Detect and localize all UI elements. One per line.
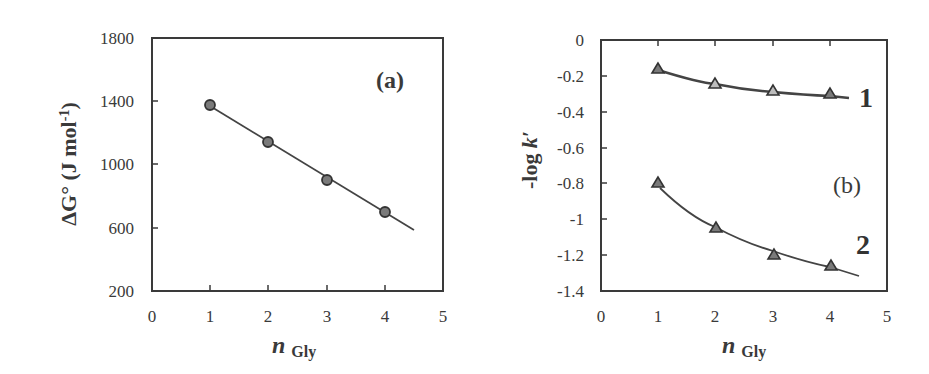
svg-text:4: 4	[826, 307, 835, 326]
circle-marker	[263, 137, 273, 147]
svg-text:200: 200	[109, 282, 135, 301]
y-axis-title-a: ΔG° (J mol-1)	[56, 102, 81, 225]
fit-curve-series-1	[658, 70, 849, 98]
svg-text:-1: -1	[570, 210, 584, 229]
panel-label-a: (a)	[376, 67, 404, 93]
y-tick-labels-a: 200 600 1000 1400 1800	[100, 29, 134, 301]
svg-text:1: 1	[206, 307, 215, 326]
svg-text:5: 5	[883, 307, 892, 326]
svg-text:0: 0	[597, 307, 606, 326]
series-label-1: 1	[859, 82, 873, 113]
svg-text:1800: 1800	[100, 29, 134, 48]
svg-text:0: 0	[148, 307, 157, 326]
svg-text:3: 3	[323, 307, 332, 326]
plot-frame-b	[601, 40, 887, 291]
svg-text:-1.4: -1.4	[557, 282, 584, 301]
triangle-marker	[825, 260, 837, 270]
svg-text:2: 2	[264, 307, 273, 326]
triangle-marker	[710, 222, 722, 232]
x-axis-title-a: nGly	[272, 332, 316, 361]
triangle-marker	[652, 177, 664, 187]
circle-marker	[380, 207, 390, 217]
svg-text:4: 4	[381, 307, 390, 326]
circle-marker	[205, 100, 215, 110]
x-tick-labels-b: 0 1 2 3 4 5	[597, 307, 892, 326]
svg-text:1400: 1400	[100, 92, 134, 111]
svg-text:1: 1	[654, 307, 663, 326]
panel-label-b: (b)	[833, 172, 861, 198]
data-points-series-1	[652, 63, 836, 98]
chart-b: 0 -0.2 -0.4 -0.6 -0.8 -1 -1.2 -1.4 0 1 2…	[465, 0, 929, 374]
svg-text:-0.4: -0.4	[557, 103, 584, 122]
y-axis-title-b: -log k′	[517, 131, 542, 189]
svg-text:-0.2: -0.2	[557, 67, 584, 86]
chart-a: 200 600 1000 1400 1800 0 1 2 3 4 5 (a) Δ…	[0, 0, 465, 374]
svg-text:600: 600	[109, 219, 135, 238]
series-label-2: 2	[856, 229, 870, 260]
x-tick-labels-a: 0 1 2 3 4 5	[148, 307, 448, 326]
x-axis-title-b: nGly	[722, 332, 766, 361]
triangle-marker	[824, 88, 836, 98]
svg-text:-0.6: -0.6	[557, 139, 584, 158]
svg-text:-1.2: -1.2	[557, 246, 584, 265]
svg-text:0: 0	[576, 31, 585, 50]
svg-text:2: 2	[711, 307, 720, 326]
circle-marker	[322, 175, 332, 185]
svg-text:5: 5	[439, 307, 448, 326]
triangle-marker	[652, 63, 664, 73]
triangle-marker	[767, 85, 779, 95]
svg-text:3: 3	[769, 307, 778, 326]
data-points-series-2	[652, 177, 837, 270]
svg-text:-0.8: -0.8	[557, 174, 584, 193]
svg-text:1000: 1000	[100, 155, 134, 174]
y-tick-labels-b: 0 -0.2 -0.4 -0.6 -0.8 -1 -1.2 -1.4	[557, 31, 584, 301]
